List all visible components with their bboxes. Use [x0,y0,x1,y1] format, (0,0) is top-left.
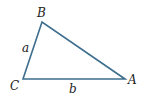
triangle-diagram: B C A a b [0,0,144,100]
side-label-b: b [69,82,77,96]
triangle-abc [23,22,125,79]
side-label-a: a [22,41,29,55]
vertex-label-c: C [10,79,19,93]
vertex-label-a: A [127,73,137,87]
vertex-label-b: B [36,6,46,20]
